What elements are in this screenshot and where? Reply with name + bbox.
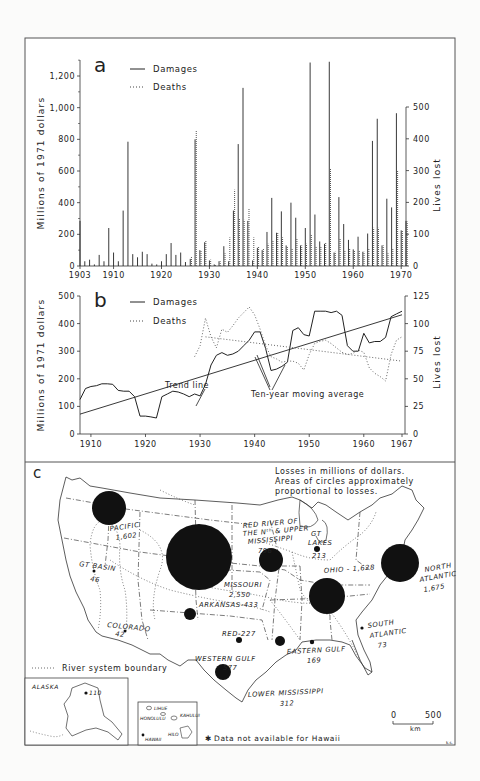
hawaii-note-asterisk: ✱	[205, 734, 212, 743]
region-label: MISSOURI	[224, 581, 262, 589]
legend-damages-label: Damages	[153, 297, 198, 307]
trend-line-annotation: Trend line	[164, 381, 209, 390]
region-value: 42	[115, 630, 125, 639]
x-tick-label: 1910	[102, 271, 124, 280]
region-label: RED-227	[222, 630, 256, 638]
x-tick-label: 1920	[150, 271, 172, 280]
region-label: LAKES	[308, 539, 333, 547]
y2-tick-label: 75	[413, 347, 424, 356]
y2-tick-label: 25	[413, 402, 424, 411]
legend-deaths-label: Deaths	[153, 316, 187, 326]
x-tick-label: 1930	[189, 440, 211, 449]
region-value: 312	[280, 699, 295, 708]
y-axis-right-label: Lives lost	[432, 158, 442, 212]
region-value: 73	[377, 641, 387, 650]
scale-unit: km	[410, 725, 421, 733]
hawaii-place-lihue: LIHUE	[154, 706, 168, 711]
x-tick-label: 1930	[198, 271, 220, 280]
alaska-label: ALASKA	[31, 683, 59, 690]
y2-tick-label: 50	[413, 375, 424, 384]
y-tick-label: 300	[58, 347, 75, 356]
figure: a Damages Deaths 02004006008001,0001,200…	[0, 0, 480, 781]
y2-tick-label: 0	[413, 430, 419, 439]
y-tick-label: 800	[58, 135, 75, 144]
region-value: 213	[312, 552, 326, 560]
y-tick-label: 200	[58, 375, 75, 384]
x-tick-label: 1940	[246, 271, 268, 280]
y-tick-label: 100	[58, 402, 75, 411]
scale-max: 500	[425, 711, 442, 720]
y2-tick-label: 0	[413, 262, 419, 271]
y2-tick-label: 100	[413, 320, 430, 329]
x-tick-label: 1903	[69, 271, 91, 280]
y-axis-left-label: Millions of 1971 dollars	[36, 299, 46, 432]
x-tick-label: 1940	[243, 440, 265, 449]
y-tick-label: 400	[58, 320, 75, 329]
panel-b-label: b	[94, 288, 107, 312]
circle-arkansas	[184, 608, 196, 620]
y-tick-label: 1,200	[50, 72, 75, 81]
y-tick-label: 500	[58, 292, 75, 301]
y-tick-label: 400	[58, 199, 75, 208]
map-note-line3: proportional to losses.	[275, 487, 378, 496]
hawaii-place-hawaii: HAWAII	[145, 737, 162, 742]
x-tick-label: 1960	[353, 440, 375, 449]
region-value: 2,550	[229, 591, 250, 599]
region-value: 796	[258, 547, 272, 555]
legend-deaths-label: Deaths	[153, 82, 187, 92]
map-note-line2: Areas of circles approximately	[275, 477, 414, 486]
y2-tick-label: 200	[413, 198, 430, 207]
x-tick-label: 1970	[390, 271, 412, 280]
scale-zero: 0	[391, 711, 397, 720]
region-label: ARKANSAS-433	[198, 601, 258, 609]
x-tick-label: 1960	[342, 271, 364, 280]
x-tick-label: 1950	[294, 271, 316, 280]
y2-tick-label: 400	[413, 135, 430, 144]
circle-missouri	[166, 524, 232, 590]
asterisk-icon	[142, 734, 145, 737]
moving-average-annotation: Ten-year moving average	[250, 390, 364, 399]
y-tick-label: 0	[69, 430, 75, 439]
circle-south-atlantic	[360, 626, 363, 629]
circle-eastern-gulf	[310, 640, 314, 644]
region-label: GT	[311, 530, 322, 538]
hawaii-place-hilo: HILO	[168, 732, 179, 737]
x-tick-label: 1967	[391, 440, 413, 449]
y-tick-label: 600	[58, 167, 75, 176]
x-tick-label: 1920	[134, 440, 156, 449]
hawaii-place-honolulu: HONOLULU	[140, 716, 166, 721]
y2-tick-label: 100	[413, 230, 430, 239]
y-tick-label: 200	[58, 230, 75, 239]
hawaii-note: Data not available for Hawaii	[214, 734, 340, 743]
y-axis-right-label: Lives lost	[432, 335, 442, 389]
region-value: 46	[90, 575, 101, 584]
panel-a-label: a	[94, 53, 106, 77]
region-value: 169	[307, 656, 322, 665]
map-note-line1: Losses in millions of dollars.	[275, 467, 405, 476]
credit: k.s.	[446, 740, 453, 745]
panel-c-label: c	[33, 464, 41, 482]
y2-tick-label: 300	[413, 167, 430, 176]
y-axis-left-label: Millions of 1971 dollars	[36, 97, 46, 230]
y-tick-label: 1,000	[50, 104, 75, 113]
alaska-value: 110	[89, 689, 102, 696]
y2-tick-label: 125	[413, 292, 430, 301]
x-tick-label: 1910	[80, 440, 102, 449]
hawaii-place-kahului: KAHULUI	[180, 713, 201, 718]
circle-ohio	[309, 578, 345, 614]
circle-pacific	[92, 491, 126, 525]
circle-lower-mississippi	[275, 636, 285, 646]
region-label: WESTERN GULF	[195, 655, 256, 663]
river-boundary-legend-label: River system boundary	[62, 664, 167, 673]
circle-alaska	[84, 691, 87, 694]
circle-north-atlantic	[381, 544, 419, 582]
region-value: 577	[223, 664, 237, 672]
x-tick-label: 1950	[298, 440, 320, 449]
y2-tick-label: 500	[413, 103, 430, 112]
y-tick-label: 0	[69, 262, 75, 271]
legend-damages-label: Damages	[153, 64, 198, 74]
